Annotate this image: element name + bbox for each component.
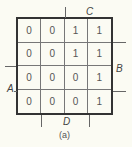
kmap-cell: 0 (41, 19, 64, 43)
kmap-cell: 1 (88, 66, 111, 90)
label-c: C (86, 7, 93, 17)
figure-caption: (a) (59, 131, 70, 140)
kmap-cell: 1 (65, 19, 88, 43)
d-bracket-line-right (89, 115, 90, 127)
a-bracket-line-bottom (14, 91, 17, 92)
c-bracket-line (65, 7, 66, 18)
d-bracket-line-left (41, 115, 42, 127)
label-b: B (116, 64, 123, 74)
kmap-cell: 0 (18, 19, 41, 43)
kmap-cell: 0 (65, 66, 88, 90)
karnaugh-map: 0011001100010001 (16, 17, 113, 115)
kmap-cell: 1 (88, 19, 111, 43)
kmap-cell: 0 (41, 43, 64, 67)
kmap-cell: 0 (65, 90, 88, 114)
kmap-cell: 1 (65, 43, 88, 67)
b-bracket-line-top (113, 42, 126, 43)
kmap-cell: 0 (41, 66, 64, 90)
label-d: D (63, 117, 70, 127)
label-a: A (7, 84, 14, 94)
kmap-cell: 0 (18, 90, 41, 114)
kmap-cell: 0 (18, 43, 41, 67)
kmap-cell: 0 (18, 66, 41, 90)
a-bracket-line-top (5, 66, 16, 67)
b-bracket-line-bottom (113, 91, 126, 92)
kmap-cell: 1 (88, 90, 111, 114)
kmap-cell: 0 (41, 90, 64, 114)
kmap-cell: 1 (88, 43, 111, 67)
